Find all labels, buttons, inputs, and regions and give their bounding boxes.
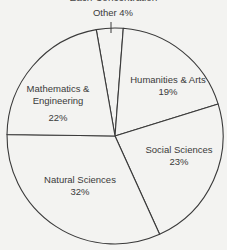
label-natural-pct: 32% bbox=[44, 186, 116, 198]
label-social-name: Social Sciences bbox=[145, 144, 212, 155]
label-natural-sciences: Natural Sciences 32% bbox=[44, 174, 116, 198]
label-humanities-name: Humanities & Arts bbox=[130, 74, 206, 85]
pie-slices bbox=[7, 28, 223, 244]
label-other-text: Other 4% bbox=[93, 7, 133, 18]
label-social-pct: 23% bbox=[145, 156, 212, 168]
label-other: Other 4% bbox=[93, 7, 133, 19]
pie-chart bbox=[0, 0, 227, 250]
label-math-name-line1: Mathematics & bbox=[27, 83, 90, 95]
label-mathematics-engineering: Mathematics & Engineering 22% bbox=[27, 83, 90, 124]
label-social-sciences: Social Sciences 23% bbox=[145, 144, 212, 168]
label-math-name-line2: Engineering bbox=[27, 95, 90, 107]
label-natural-name: Natural Sciences bbox=[44, 174, 116, 185]
pie-chart-figure: Each Concentration Other 4% Humanities &… bbox=[0, 0, 227, 250]
label-humanities-arts: Humanities & Arts 19% bbox=[130, 74, 206, 98]
label-math-pct: 22% bbox=[27, 112, 90, 124]
label-humanities-pct: 19% bbox=[130, 86, 206, 98]
